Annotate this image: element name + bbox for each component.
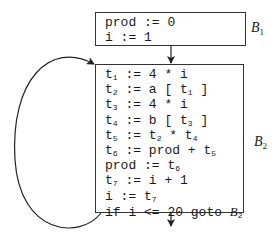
code-token: := 4 * i (118, 97, 188, 112)
code-token: := b [ t (118, 113, 188, 128)
code-token: t (105, 173, 113, 188)
code-token: t (105, 143, 113, 158)
code-token: := a [ t (118, 82, 188, 97)
code-token: * t (161, 128, 192, 143)
code-token: ] (193, 113, 209, 128)
edge-b2-loop-back (15, 57, 101, 228)
code-token: i := t (105, 189, 152, 204)
code-token: prod := 0 (105, 15, 175, 30)
code-token: := i + 1 (118, 173, 188, 188)
code-line: t6 := prod + t5 (105, 143, 243, 158)
basic-block-b2: t1 := 4 * it2 := a [ t1 ]t3 := 4 * it4 :… (95, 64, 244, 213)
code-token: t (105, 128, 113, 143)
code-token: prod := t (105, 158, 175, 173)
code-line: t7 := i + 1 (105, 173, 243, 188)
code-token: 7 (152, 195, 157, 204)
code-token: B (230, 204, 238, 219)
code-line: t4 := b [ t3 ] (105, 113, 243, 128)
block-label-b1: B1 (251, 20, 264, 36)
code-token: t (105, 97, 113, 112)
code-line: i := 1 (105, 30, 245, 45)
code-line: t1 := 4 * i (105, 67, 243, 82)
block-label-b2: B2 (254, 134, 267, 150)
basic-block-b1: prod := 0i := 1 (95, 12, 246, 46)
code-line: prod := t6 (105, 158, 243, 173)
code-token: 4 (193, 134, 198, 143)
code-token: := t (118, 128, 157, 143)
code-token: if i <= 20 goto (105, 205, 230, 220)
code-line: t5 := t2 * t4 (105, 128, 243, 143)
code-token: t (105, 82, 113, 97)
code-token: i := 1 (105, 30, 152, 45)
code-token: t (105, 113, 113, 128)
code-token: 2 (238, 211, 243, 220)
code-token: 5 (211, 149, 216, 158)
code-token: 6 (175, 164, 180, 173)
code-line: t2 := a [ t1 ] (105, 82, 243, 97)
code-token: := 4 * i (118, 67, 188, 82)
code-line: prod := 0 (105, 15, 245, 30)
code-token: t (105, 67, 113, 82)
code-token: := prod + t (118, 143, 212, 158)
code-line: t3 := 4 * i (105, 97, 243, 112)
code-line: i := t7 (105, 189, 243, 204)
code-token: ] (193, 82, 209, 97)
code-line: if i <= 20 goto B2 (105, 204, 243, 219)
